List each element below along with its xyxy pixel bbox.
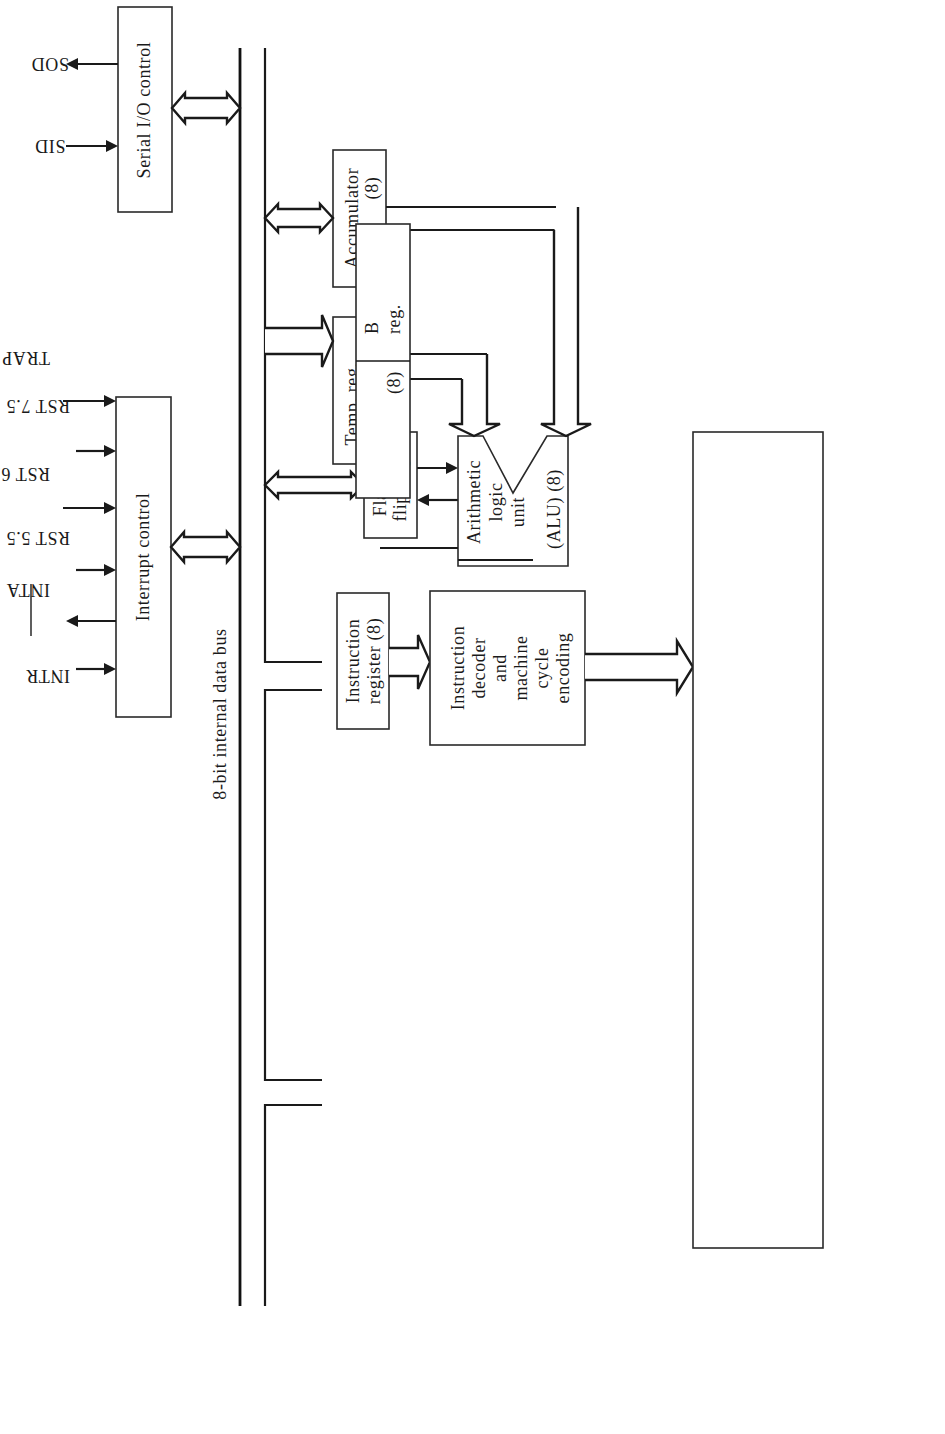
svg-text:logic: logic bbox=[486, 483, 506, 522]
block-diagram: 8-bit internal data bus Serial I/O contr… bbox=[0, 0, 945, 1434]
decoder-to-timing-arrow bbox=[585, 641, 693, 693]
svg-text:Arithmetic: Arithmetic bbox=[464, 460, 484, 544]
svg-text:machine: machine bbox=[511, 635, 531, 700]
flag-bus-double-arrow bbox=[265, 472, 364, 498]
svg-text:reg.: reg. bbox=[384, 304, 404, 334]
register-array-grid: B reg. (8) C bbox=[356, 224, 410, 498]
instruction-register: Instruction register (8) bbox=[337, 593, 430, 729]
serial-bus-double-arrow bbox=[172, 93, 240, 123]
timing-and-control bbox=[693, 432, 823, 1248]
temp-bus-arrow bbox=[265, 315, 333, 367]
rst75-arrow-icon bbox=[104, 445, 116, 457]
rst75-label: RST 7.5 bbox=[6, 396, 70, 416]
accumulator-to-alu-arrow bbox=[541, 207, 591, 436]
sod-label: SOD bbox=[31, 54, 69, 74]
rst65-arrow-icon bbox=[104, 502, 116, 514]
svg-text:Instruction: Instruction bbox=[343, 619, 363, 704]
interrupt-control: Interrupt control TRAP RST 7.5 RST 6.5 R… bbox=[0, 348, 240, 1402]
instruction-decoder: Instruction decoder and machine cycle en… bbox=[430, 591, 693, 745]
sid-label: SID bbox=[35, 136, 66, 156]
trap-arrow-icon bbox=[104, 395, 116, 407]
svg-text:(8): (8) bbox=[384, 371, 405, 394]
bus-label: 8-bit internal data bus bbox=[210, 628, 230, 799]
svg-text:and: and bbox=[490, 654, 510, 682]
inta-label: INTA bbox=[6, 580, 50, 600]
interrupt-label: Interrupt control bbox=[133, 493, 153, 622]
intr-arrow-icon bbox=[104, 663, 116, 675]
svg-text:unit: unit bbox=[508, 497, 528, 527]
inta-arrow-icon bbox=[66, 615, 78, 627]
alu-to-flag-arrow-icon bbox=[417, 494, 429, 506]
flag-to-alu-arrow-icon bbox=[446, 462, 458, 474]
svg-text:B: B bbox=[362, 321, 382, 334]
ir-to-decoder-arrow bbox=[389, 635, 430, 689]
block-diagram-rotated-stage: 8-bit internal data bus Serial I/O contr… bbox=[0, 0, 945, 1434]
trap-label: TRAP bbox=[2, 348, 50, 368]
svg-text:cycle: cycle bbox=[532, 648, 552, 689]
serial-io-label: Serial I/O control bbox=[134, 42, 154, 179]
interrupt-bus-double-arrow bbox=[171, 532, 240, 562]
svg-text:register (8): register (8) bbox=[364, 618, 385, 705]
rst65-label: RST 6.5 bbox=[0, 464, 50, 484]
svg-text:encoding: encoding bbox=[553, 633, 573, 704]
serial-io-control: Serial I/O control SID SOD bbox=[31, 7, 240, 212]
rst55-label: RST 5.5 bbox=[6, 528, 70, 548]
svg-text:decoder: decoder bbox=[469, 637, 489, 698]
accumulator-bus-double-arrow bbox=[265, 204, 333, 232]
rst55-arrow-icon bbox=[104, 564, 116, 576]
svg-text:(8): (8) bbox=[362, 177, 383, 200]
sid-arrow-icon bbox=[106, 140, 118, 152]
svg-text:Instruction: Instruction bbox=[448, 626, 468, 711]
svg-text:(ALU) (8): (ALU) (8) bbox=[544, 469, 565, 549]
intr-label: INTR bbox=[26, 666, 70, 686]
temp-to-alu-arrow bbox=[449, 354, 500, 436]
internal-data-bus: 8-bit internal data bus bbox=[210, 48, 322, 1306]
timing-control-box bbox=[693, 432, 823, 1248]
